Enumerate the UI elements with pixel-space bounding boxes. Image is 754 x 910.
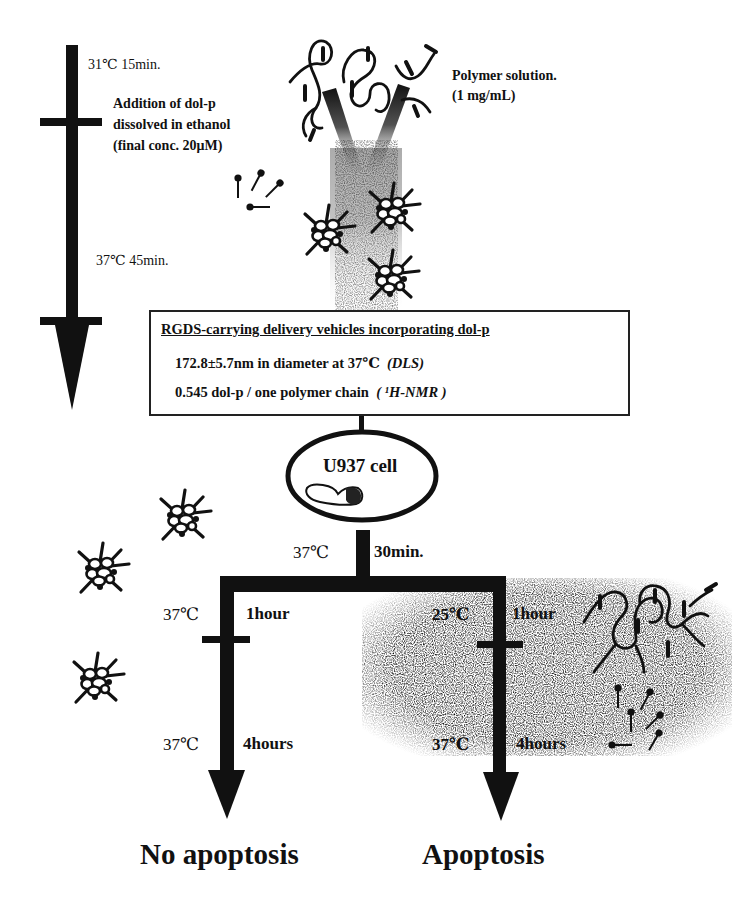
micelle-icons-floating (74, 490, 211, 702)
vehicle-ratio-method: ( ¹H-NMR ) (376, 384, 446, 400)
addition-line1: Addition of dol-p (113, 94, 216, 114)
polymer-solution-label: Polymer solution. (452, 66, 557, 86)
polymer-concentration-label: (1 mg/mL) (452, 86, 515, 106)
vehicle-diameter: 172.8±5.7nm in diameter at 37℃ (175, 355, 380, 371)
vehicle-diameter-method: (DLS) (387, 355, 424, 371)
right-temp2: 37℃ (432, 734, 469, 755)
right-time2: 4hours (516, 734, 566, 754)
left-time1: 1hour (246, 604, 289, 624)
vehicle-ratio-line: 0.545 dol-p / one polymer chain ( ¹H-NMR… (175, 384, 447, 401)
polymer-chain-icon (290, 41, 434, 136)
delivery-vehicle-box: RGDS-carrying delivery vehicles incorpor… (149, 310, 630, 416)
left-temp2: 37℃ (163, 734, 199, 755)
cell-incubation-time: 30min. (374, 542, 424, 562)
left-outcome: No apoptosis (140, 838, 299, 871)
branch-bar (220, 576, 506, 592)
preparation-timeline-arrow (40, 45, 102, 410)
left-branch-arrow (202, 576, 250, 819)
right-temp1: 25℃ (432, 604, 469, 625)
addition-line2: dissolved in ethanol (113, 115, 230, 135)
vehicle-box-title: RGDS-carrying delivery vehicles incorpor… (161, 321, 490, 338)
dol-p-lipid-icons-top (234, 168, 285, 210)
vehicle-ratio: 0.545 dol-p / one polymer chain (175, 384, 369, 400)
right-time1: 1hour (512, 604, 555, 624)
step1-label: 31℃ 15min. (88, 56, 160, 73)
vehicle-diameter-line: 172.8±5.7nm in diameter at 37℃ (DLS) (175, 354, 424, 372)
right-outcome: Apoptosis (422, 838, 545, 871)
left-time2: 4hours (243, 734, 293, 754)
step2-label: 37℃ 45min. (96, 252, 168, 269)
cell-incubation-temp: 37℃ (293, 542, 329, 563)
left-temp1: 37℃ (163, 604, 199, 625)
cell-label: U937 cell (323, 455, 397, 477)
addition-line3: (final conc. 20μM) (113, 136, 222, 156)
